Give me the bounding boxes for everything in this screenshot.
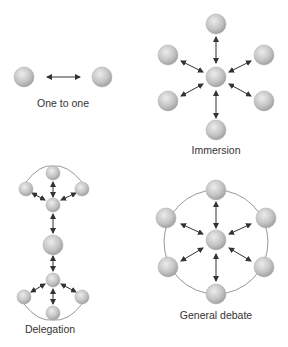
node-delegation [46, 273, 60, 287]
node-general-debate [206, 180, 226, 200]
node-general-debate [256, 208, 276, 228]
node-general-debate [158, 257, 178, 277]
node-immersion [254, 91, 274, 111]
node-immersion [158, 91, 178, 111]
node-one-to-one [14, 67, 34, 87]
double-arrow-icon [181, 248, 203, 261]
double-arrow-icon [229, 84, 251, 96]
double-arrow-icon [229, 224, 251, 234]
node-delegation [19, 182, 33, 196]
double-arrow-icon [31, 284, 45, 292]
label-one-to-one: One to one [37, 97, 89, 109]
node-immersion [254, 45, 274, 65]
node-delegation [46, 166, 60, 180]
node-delegation [17, 290, 31, 304]
double-arrow-icon [32, 193, 45, 200]
double-arrow-icon [61, 193, 76, 200]
node-general-debate [206, 230, 226, 250]
double-arrow-icon [61, 284, 76, 292]
node-delegation [75, 290, 89, 304]
node-general-debate [206, 284, 226, 304]
double-arrow-icon [181, 224, 203, 234]
double-arrow-icon [181, 61, 203, 72]
label-delegation: Delegation [25, 323, 75, 335]
node-delegation [46, 198, 60, 212]
node-immersion [206, 14, 226, 34]
label-immersion: Immersion [191, 144, 240, 156]
node-immersion [206, 67, 226, 87]
node-one-to-one [92, 67, 112, 87]
double-arrow-icon [181, 84, 203, 96]
node-general-debate [156, 208, 176, 228]
node-immersion [158, 45, 178, 65]
node-delegation [43, 235, 63, 255]
node-general-debate [254, 257, 274, 277]
label-general-debate: General debate [180, 309, 253, 321]
double-arrow-icon [229, 61, 251, 72]
participant-nodes [14, 14, 276, 320]
node-delegation [46, 306, 60, 320]
double-arrow-icon [229, 248, 251, 261]
diagram-canvas: One to one Immersion Delegation General … [0, 0, 288, 347]
node-immersion [206, 120, 226, 140]
node-delegation [75, 182, 89, 196]
